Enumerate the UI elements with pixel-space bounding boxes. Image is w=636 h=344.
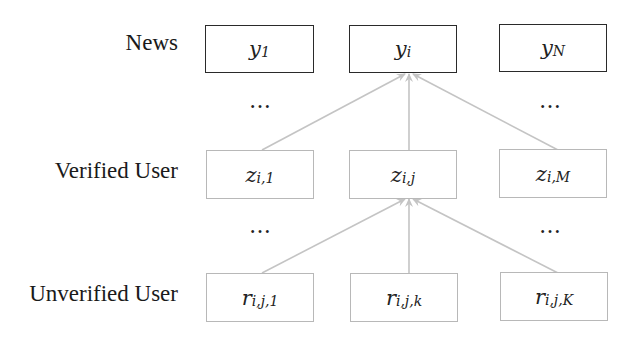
ellipsis: …: [539, 213, 562, 238]
edge-zM-yi: [413, 74, 558, 150]
node-sub: i,1: [257, 170, 275, 186]
ellipsis: …: [249, 88, 272, 113]
node-base: y: [249, 37, 261, 61]
node-z-i-M: zi,M: [499, 149, 607, 198]
node-sub: i,j,1: [252, 293, 279, 309]
node-r-i-j-k: ri,j,k: [350, 273, 458, 322]
node-z-i-1: zi,1: [206, 150, 314, 199]
node-base: r: [242, 286, 252, 310]
node-base: y: [541, 36, 553, 60]
node-sub: i,j,K: [545, 292, 573, 308]
node-sub: i,j: [402, 170, 415, 186]
node-base: z: [246, 163, 257, 187]
edge-r1-zj: [262, 199, 405, 273]
node-sub: i: [407, 44, 411, 60]
node-sub: N: [553, 43, 565, 59]
node-y-i: yi: [349, 25, 457, 73]
node-base: z: [391, 163, 402, 187]
node-r-i-j-1: ri,j,1: [206, 273, 314, 322]
node-sub: 1: [261, 44, 270, 60]
node-sub: i,j,k: [396, 293, 422, 309]
node-r-i-j-K: ri,j,K: [500, 272, 608, 321]
node-y-1: y1: [205, 25, 314, 73]
edge-rK-zj: [413, 199, 558, 273]
node-z-i-j: zi,j: [349, 150, 457, 199]
node-y-N: yN: [499, 24, 607, 72]
node-base: y: [395, 37, 407, 61]
node-base: r: [535, 285, 545, 309]
ellipsis: …: [539, 88, 562, 113]
ellipsis: …: [249, 213, 272, 238]
node-base: z: [536, 162, 547, 186]
node-sub: i,M: [547, 169, 570, 185]
node-base: r: [386, 286, 396, 310]
edge-z1-yi: [262, 74, 405, 150]
